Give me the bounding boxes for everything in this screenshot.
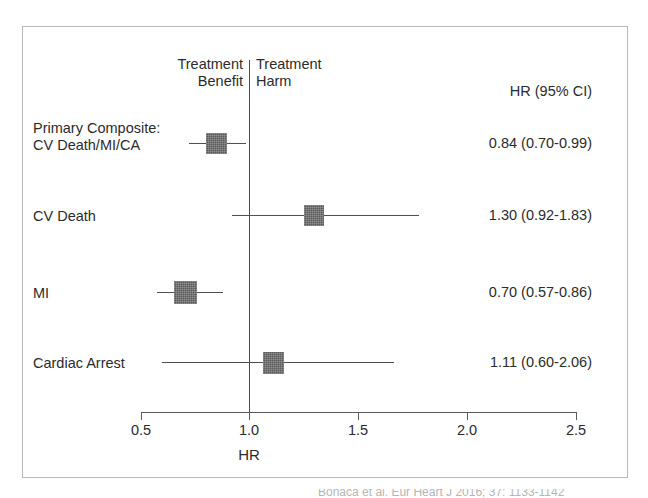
x-axis-tick-label-3: 2.0 bbox=[437, 422, 497, 438]
x-axis-tick-label-0: 0.5 bbox=[111, 422, 171, 438]
row-value-cv-death: 1.30 (0.92-1.83) bbox=[400, 207, 592, 224]
row-label-cv-death: CV Death bbox=[33, 208, 96, 225]
row-value-mi: 0.70 (0.57-0.86) bbox=[400, 284, 592, 301]
x-axis-tick-label-4: 2.5 bbox=[546, 422, 606, 438]
row-value-cardiac-arrest: 1.11 (0.60-2.06) bbox=[400, 354, 592, 371]
row-label-primary-composite: Primary Composite: CV Death/MI/CA bbox=[33, 120, 160, 154]
x-axis-tick-label-2: 1.5 bbox=[328, 422, 388, 438]
x-axis-tick-label-1: 1.0 bbox=[219, 422, 279, 438]
x-axis-title: HR bbox=[219, 446, 279, 463]
row-label-mi: MI bbox=[33, 285, 49, 302]
x-axis-tick-2 bbox=[358, 412, 359, 420]
ci-line-cv-death bbox=[232, 215, 419, 216]
x-axis-tick-0 bbox=[141, 412, 142, 420]
hr-ci-column-header: HR (95% CI) bbox=[400, 83, 592, 100]
forest-plot: Treatment Benefit Treatment Harm HR (95%… bbox=[0, 0, 648, 498]
point-marker-cv-death bbox=[304, 205, 324, 226]
row-label-cardiac-arrest: Cardiac Arrest bbox=[33, 355, 125, 372]
point-marker-primary-composite bbox=[206, 133, 227, 154]
x-axis-tick-4 bbox=[576, 412, 577, 420]
point-marker-cardiac-arrest bbox=[263, 352, 284, 374]
point-marker-mi bbox=[174, 281, 197, 304]
x-axis-tick-1 bbox=[249, 412, 250, 420]
x-axis-tick-3 bbox=[467, 412, 468, 420]
citation-text: Bonaca et al. Eur Heart J 2016; 37: 1133… bbox=[318, 489, 564, 498]
row-value-primary-composite: 0.84 (0.70-0.99) bbox=[400, 135, 592, 152]
treatment-benefit-header: Treatment Benefit bbox=[60, 56, 243, 90]
citation-strip: Bonaca et al. Eur Heart J 2016; 37: 1133… bbox=[0, 489, 648, 498]
